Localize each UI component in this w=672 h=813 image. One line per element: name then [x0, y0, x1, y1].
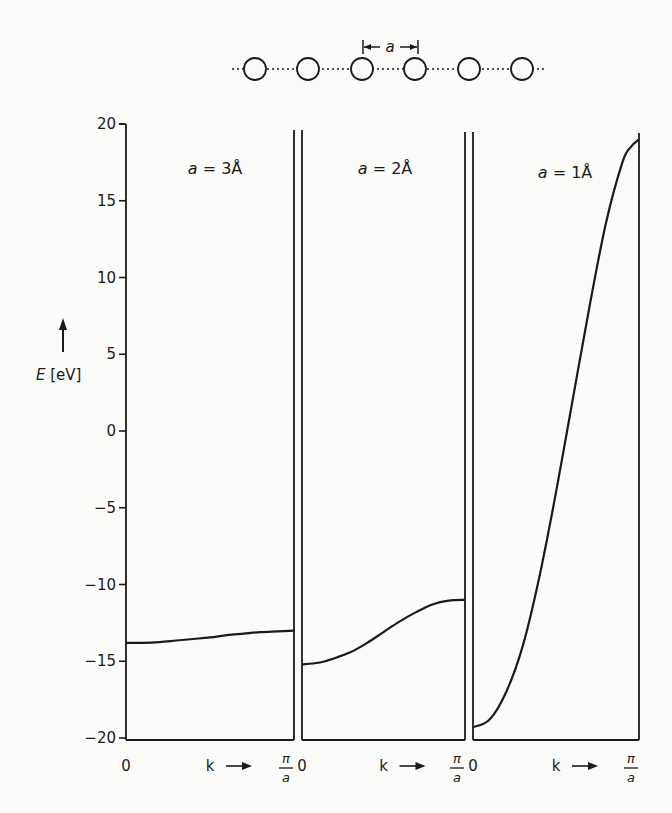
band-curve	[302, 600, 465, 664]
panel-label: a = 1Å	[538, 163, 593, 182]
y-tick-label: 20	[97, 115, 116, 133]
a-denominator-label: a	[627, 770, 635, 785]
up-arrow-icon	[59, 318, 67, 330]
y-tick-label: 5	[106, 345, 116, 363]
y-tick-label: −20	[84, 729, 116, 747]
atom-icon	[511, 58, 533, 80]
right-arrow-icon	[416, 762, 426, 770]
y-tick-label: −15	[84, 652, 116, 670]
k-label: k	[552, 757, 561, 775]
panels: a = 3Å0kπaa = 2Å0kπaa = 1Å0kπa	[121, 124, 639, 785]
panel-label: a = 3Å	[188, 159, 243, 178]
atom-icon	[458, 58, 480, 80]
right-arrow-icon	[242, 762, 252, 770]
pi-label: π	[453, 751, 461, 766]
svg-text:E [eV]: E [eV]	[36, 366, 81, 384]
y-axis-label: E [eV]	[36, 318, 81, 384]
right-arrow-icon	[588, 762, 598, 770]
x-start-label: 0	[121, 757, 131, 775]
band-curve	[126, 631, 294, 643]
panel-label: a = 2Å	[358, 159, 413, 178]
panel-1: a = 3Å0kπa	[121, 124, 294, 785]
atom-icon	[404, 58, 426, 80]
y-tick-label: 15	[97, 192, 116, 210]
x-start-label: 0	[468, 757, 478, 775]
band-structure-figure: a 20151050−5−10−15−20 a = 3Å0kπaa = 2Å0k…	[0, 0, 672, 813]
a-denominator-label: a	[453, 770, 461, 785]
pi-label: π	[282, 751, 290, 766]
y-tick-label: −5	[94, 499, 116, 517]
y-tick-label: 0	[106, 422, 116, 440]
y-tick-label: 10	[97, 269, 116, 287]
k-label: k	[379, 757, 388, 775]
atom-icon	[351, 58, 373, 80]
y-tick-label: −10	[84, 576, 116, 594]
k-label: k	[206, 757, 215, 775]
spacing-label: a	[385, 38, 394, 56]
atom-icon	[297, 58, 319, 80]
x-start-label: 0	[297, 757, 307, 775]
pi-label: π	[627, 751, 635, 766]
panel-2: a = 2Å0kπa	[297, 130, 465, 785]
band-curve	[473, 139, 639, 727]
a-denominator-label: a	[282, 770, 290, 785]
y-axis: 20151050−5−10−15−20	[84, 115, 126, 747]
panel-3: a = 1Å0kπa	[468, 132, 639, 785]
atom-icon	[244, 58, 266, 80]
lattice-diagram: a	[232, 38, 545, 80]
